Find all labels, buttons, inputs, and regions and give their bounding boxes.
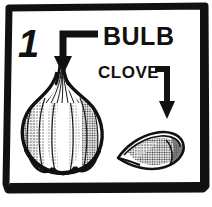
- diagram-canvas: 1 BULB CLOVE: [0, 0, 212, 207]
- step-number: 1: [18, 23, 39, 65]
- garlic-diagram-figure: 1 BULB CLOVE: [0, 0, 212, 207]
- clove-label: CLOVE: [98, 63, 159, 82]
- bulb-label: BULB: [103, 22, 174, 50]
